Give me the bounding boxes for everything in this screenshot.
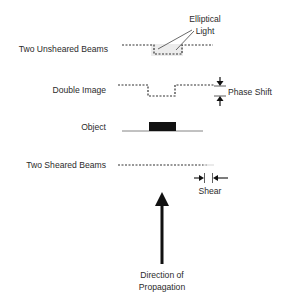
object-specimen	[122, 122, 203, 131]
elliptical-light-label-line2: Light	[180, 26, 230, 36]
shear-label: Shear	[193, 186, 227, 196]
row-label-double-image: Double Image	[8, 85, 106, 95]
double-image-wavefront	[118, 85, 214, 96]
row-label-sheared: Two Sheared Beams	[8, 160, 106, 170]
row-label-unsheared: Two Unsheared Beams	[8, 44, 108, 54]
object-block	[149, 122, 176, 131]
elliptical-light-label-line1: Elliptical	[180, 14, 230, 24]
direction-label-line2: Propagation	[122, 282, 202, 292]
direction-label-line1: Direction of	[122, 270, 202, 280]
propagation-arrow-icon	[155, 192, 169, 264]
row-label-object: Object	[8, 122, 106, 132]
shear-marker	[194, 173, 228, 183]
phase-shift-label: Phase Shift	[228, 87, 272, 97]
phase-shift-marker	[214, 77, 226, 106]
